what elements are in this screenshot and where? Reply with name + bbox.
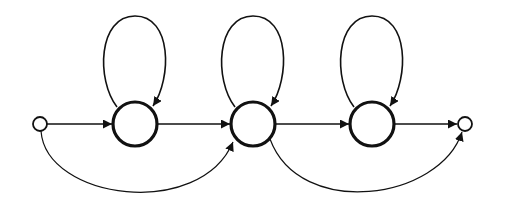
start-node xyxy=(33,117,47,131)
state-node-2 xyxy=(231,102,275,146)
state-node-3 xyxy=(350,102,394,146)
self-loop-s1 xyxy=(104,16,166,107)
state-node-1 xyxy=(113,102,157,146)
state-diagram xyxy=(0,0,506,209)
self-loop-s2 xyxy=(222,16,284,107)
self-loop-s3 xyxy=(341,16,403,107)
end-node xyxy=(458,117,472,131)
